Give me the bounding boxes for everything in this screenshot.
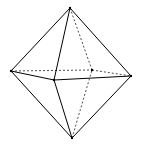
hidden-edge-back-right [92, 70, 131, 76]
edge-bottom-front [54, 80, 72, 138]
octahedron-diagram [0, 0, 141, 145]
edge-top-front [54, 8, 70, 80]
hidden-edges [11, 8, 131, 138]
vertex-top [69, 7, 71, 9]
vertex-bottom [71, 137, 73, 139]
vertices [10, 7, 132, 139]
vertex-right [130, 75, 132, 77]
hidden-edge-top-back [70, 8, 92, 70]
edge-top-right [70, 8, 131, 76]
vertex-back [91, 69, 93, 71]
edge-front-right [54, 76, 131, 80]
hidden-edge-left-back [11, 70, 92, 71]
edge-bottom-left [11, 71, 72, 138]
vertex-front [53, 79, 55, 81]
edge-top-left [11, 8, 70, 71]
vertex-left [10, 70, 12, 72]
